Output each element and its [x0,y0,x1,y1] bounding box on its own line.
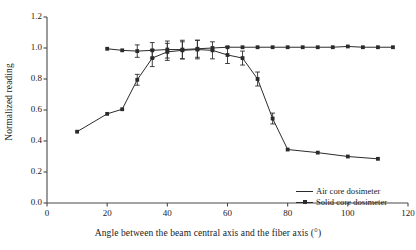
data-point [120,107,124,111]
data-point [361,45,365,49]
data-point [135,78,139,82]
data-point [376,45,380,49]
data-point [346,45,350,49]
series-line [107,46,393,51]
series-air-core [75,40,380,160]
y-tick-label: 0.2 [13,166,42,176]
data-point [286,45,290,49]
x-tick-label: 0 [32,208,62,218]
x-tick-label: 100 [333,208,363,218]
chart-figure: Normalized reading Angle between the bea… [0,0,416,250]
chart-legend: Air core dosimeter Solid core dosimeter [296,186,387,208]
legend-item-solid-core: Solid core dosimeter [296,197,387,208]
y-tick-label: 0.6 [13,104,42,114]
data-point [271,117,275,121]
x-tick-label: 120 [393,208,416,218]
y-tick-label: 0.4 [13,135,42,145]
legend-label-air-core: Air core dosimeter [316,186,380,197]
data-point [135,49,139,53]
data-point [331,45,335,49]
x-axis-label: Angle between the beam central axis and … [95,228,321,238]
x-tick-label: 80 [273,208,303,218]
y-tick-label: 1.2 [13,11,42,21]
data-point [241,56,245,60]
data-point [105,47,109,51]
x-tick-label: 40 [152,208,182,218]
x-tick-label: 60 [213,208,243,218]
data-point [241,45,245,49]
x-axis-label-container: Angle between the beam central axis and … [0,228,416,238]
data-point [165,48,169,52]
data-point [286,148,290,152]
data-point [301,45,305,49]
y-tick-label: 1.0 [13,42,42,52]
data-point [211,46,215,50]
legend-item-air-core: Air core dosimeter [296,186,387,197]
data-point [150,48,154,52]
data-point [196,47,200,51]
legend-line-square-icon [296,197,313,208]
series-line [77,50,378,159]
data-point [226,53,230,57]
data-point [226,45,230,49]
data-point [376,157,380,161]
legend-label-solid-core: Solid core dosimeter [316,197,387,208]
data-point [105,112,109,116]
data-point [75,130,79,134]
data-point [256,77,260,81]
data-point [180,48,184,52]
y-tick-label: 0.0 [13,197,42,207]
data-point [346,155,350,159]
data-point [316,45,320,49]
data-point [256,45,260,49]
data-point [120,48,124,52]
legend-line-icon [296,186,313,197]
series-solid-core [105,40,395,59]
y-tick-label: 0.8 [13,73,42,83]
data-point [271,45,275,49]
data-point [316,151,320,155]
data-point [391,45,395,49]
x-tick-label: 20 [92,208,122,218]
